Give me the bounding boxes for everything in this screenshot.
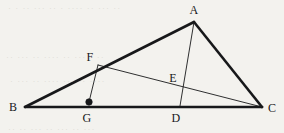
label-E: E — [169, 72, 177, 84]
segment-FG — [89, 65, 98, 102]
point-marker-G — [86, 99, 92, 105]
figure-canvas — [0, 0, 284, 133]
side-BA — [25, 22, 194, 107]
side-AC — [194, 22, 262, 107]
segments-layer — [25, 22, 262, 107]
cevian-AD — [180, 22, 194, 106]
label-F: F — [87, 51, 94, 63]
label-B: B — [9, 101, 17, 113]
geometry-figure: · · ·· ··· ·· · ···· ·· ··· ···· ··· ·· … — [0, 0, 284, 133]
segment-FC — [98, 65, 262, 107]
marked-points-layer — [86, 99, 92, 105]
label-C: C — [268, 102, 276, 114]
label-G: G — [83, 112, 92, 124]
label-D: D — [172, 112, 181, 124]
label-A: A — [190, 4, 199, 16]
